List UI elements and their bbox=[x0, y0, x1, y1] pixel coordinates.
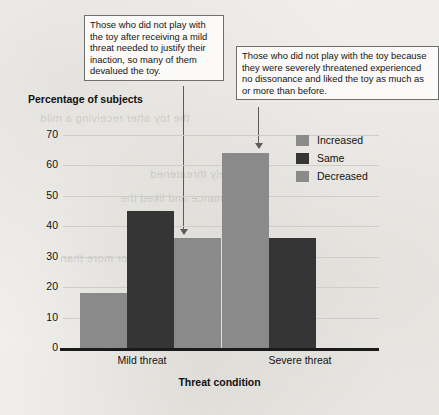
callout-severe-threat: Those who did not play with the toy beca… bbox=[236, 46, 439, 100]
bar-severe-threat-same bbox=[269, 238, 316, 348]
legend-label-decreased: Decreased bbox=[317, 170, 368, 182]
bar-severe-threat-increased bbox=[222, 153, 269, 348]
bar-mild-threat-increased bbox=[80, 293, 127, 348]
gridline bbox=[63, 196, 379, 197]
callout-mild-threat: Those who did not play with the toy afte… bbox=[84, 15, 224, 81]
legend-swatch-same bbox=[296, 153, 309, 164]
x-axis-label-severe-threat: Severe threat bbox=[221, 354, 379, 366]
x-axis-label-mild-threat: Mild threat bbox=[63, 354, 221, 366]
y-axis-tick-label: 40 bbox=[28, 219, 58, 231]
bar-mild-threat-decreased bbox=[174, 238, 221, 348]
y-axis-tick-label: 70 bbox=[28, 128, 58, 140]
y-axis-tick-label: 50 bbox=[28, 189, 58, 201]
y-axis-tick-label: 60 bbox=[28, 158, 58, 170]
legend-label-same: Same bbox=[317, 152, 344, 164]
ghost-text: the toy after receiving a mild bbox=[40, 112, 190, 124]
legend-label-increased: Increased bbox=[317, 134, 363, 146]
legend-item-same: Same bbox=[296, 149, 368, 167]
y-axis-title: Percentage of subjects bbox=[28, 93, 158, 106]
callout-mild-text: Those who did not play with the toy afte… bbox=[90, 19, 219, 77]
x-axis-title: Threat condition bbox=[0, 376, 439, 388]
gridline bbox=[63, 257, 379, 258]
legend-swatch-decreased bbox=[296, 171, 309, 182]
gridline bbox=[63, 226, 379, 227]
scanned-page: the toy after receiving a mild severely … bbox=[0, 0, 439, 415]
y-axis-tick-label: 10 bbox=[28, 311, 58, 323]
bar-mild-threat-same bbox=[127, 211, 174, 348]
y-axis-tick-label: 30 bbox=[28, 250, 58, 262]
y-axis-tick-label: 0 bbox=[28, 341, 58, 353]
legend-item-decreased: Decreased bbox=[296, 167, 368, 185]
legend-item-increased: Increased bbox=[296, 131, 368, 149]
x-axis-line bbox=[60, 348, 379, 351]
gridline bbox=[63, 287, 379, 288]
legend-swatch-increased bbox=[296, 135, 309, 146]
y-axis-tick-label: 20 bbox=[28, 280, 58, 292]
callout-severe-text: Those who did not play with the toy beca… bbox=[242, 50, 434, 96]
chart-legend: IncreasedSameDecreased bbox=[296, 131, 368, 185]
